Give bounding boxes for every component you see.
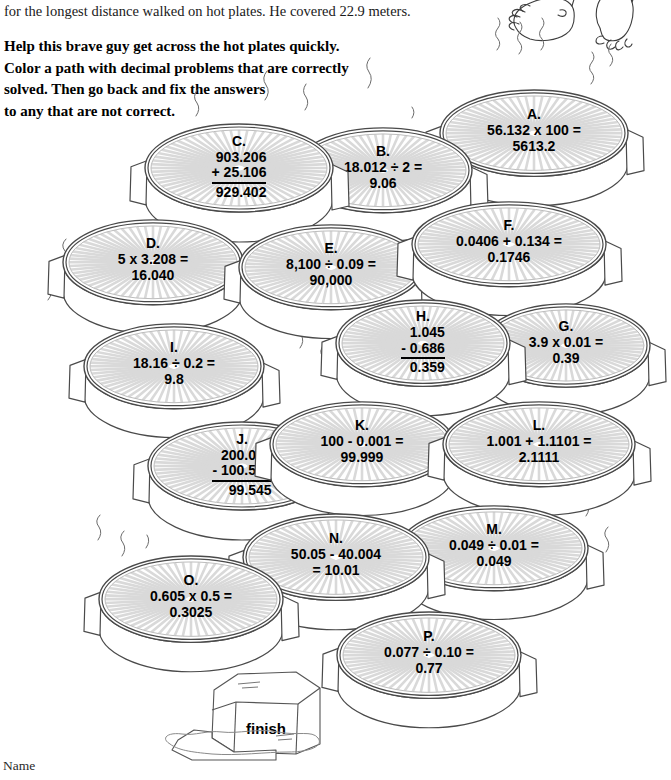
instruction-line-2: Color a path with decimal problems that …: [4, 58, 424, 80]
instruction-line-1: Help this brave guy get across the hot p…: [4, 36, 424, 58]
bare-feet-icon: [509, 0, 637, 50]
plate-graphic: [73, 528, 309, 686]
intro-text: for the longest distance walked on hot p…: [4, 2, 474, 21]
name-label: Name: [3, 758, 35, 774]
hot-plate-p[interactable]: P.0.077 ÷ 0.10 =0.77: [311, 584, 547, 742]
hot-plate-o[interactable]: O.0.605 x 0.5 =0.3025: [73, 528, 309, 686]
finish-label: finish: [246, 720, 286, 737]
plate-graphic: [311, 584, 547, 742]
